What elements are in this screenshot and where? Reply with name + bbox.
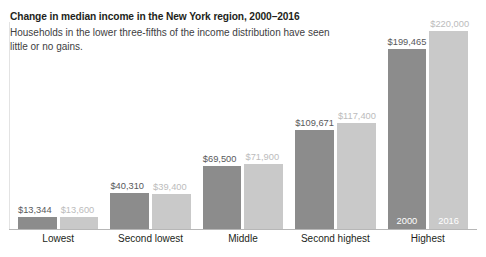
bar-value-label: $199,465 — [388, 37, 427, 48]
bar-2016-highest[interactable]: $220,0002016 — [429, 31, 468, 229]
category-label-middle: Middle — [203, 232, 283, 245]
bar-column: $39,400 — [152, 22, 191, 229]
bar-2016-middle[interactable]: $71,900 — [244, 164, 283, 229]
bar-2016-lowest[interactable]: $13,600 — [60, 217, 99, 229]
bar-group-bars: $109,671$117,400 — [295, 22, 375, 229]
bar-group: $199,4652000$220,0002016 — [388, 22, 468, 229]
bar-group: $109,671$117,400 — [295, 22, 375, 229]
bar-column: $109,671 — [295, 22, 334, 229]
bar-column: $13,344 — [18, 22, 57, 229]
bar-2016-second-lowest[interactable]: $39,400 — [152, 194, 191, 229]
bar-2000-middle[interactable]: $69,500 — [203, 166, 242, 229]
category-label-lowest: Lowest — [18, 232, 98, 245]
category-label-highest: Highest — [388, 232, 468, 245]
bar-group: $69,500$71,900 — [203, 22, 283, 229]
bar-group: $13,344$13,600 — [18, 22, 98, 229]
legend-inbar-2000: 2000 — [388, 216, 427, 226]
legend-inbar-2016: 2016 — [429, 216, 468, 226]
bar-2000-second-highest[interactable]: $109,671 — [295, 130, 334, 229]
bar-group-bars: $13,344$13,600 — [18, 22, 98, 229]
bar-2000-lowest[interactable]: $13,344 — [18, 217, 57, 229]
bar-column: $199,4652000 — [388, 22, 427, 229]
bar-column: $117,400 — [337, 22, 376, 229]
axis-baseline — [9, 229, 477, 230]
bar-value-label: $40,310 — [110, 181, 144, 192]
bar-group-bars: $199,4652000$220,0002016 — [388, 22, 468, 229]
bar-column: $40,310 — [110, 22, 149, 229]
bar-value-label: $109,671 — [295, 118, 334, 129]
bar-value-label: $220,000 — [430, 19, 469, 30]
axis-left-line — [9, 22, 10, 229]
bar-column: $71,900 — [244, 22, 283, 229]
category-label-second-highest: Second highest — [295, 232, 375, 245]
bar-group-bars: $40,310$39,400 — [110, 22, 190, 229]
bar-value-label: $71,900 — [245, 152, 279, 163]
bar-value-label: $69,500 — [203, 154, 237, 165]
chart-page: Change in median income in the New York … — [0, 0, 486, 257]
bar-value-label: $39,400 — [153, 182, 187, 193]
bar-value-label: $13,600 — [61, 205, 95, 216]
bar-value-label: $13,344 — [18, 205, 52, 216]
bar-group-bars: $69,500$71,900 — [203, 22, 283, 229]
category-label-second-lowest: Second lowest — [110, 232, 190, 245]
bar-column: $13,600 — [60, 22, 99, 229]
bar-2016-second-highest[interactable]: $117,400 — [337, 123, 376, 229]
bar-value-label: $117,400 — [338, 111, 376, 122]
bar-2000-second-lowest[interactable]: $40,310 — [110, 193, 149, 229]
bar-2000-highest[interactable]: $199,4652000 — [388, 49, 427, 229]
bar-column: $69,500 — [203, 22, 242, 229]
bar-column: $220,0002016 — [429, 22, 468, 229]
bar-group: $40,310$39,400 — [110, 22, 190, 229]
